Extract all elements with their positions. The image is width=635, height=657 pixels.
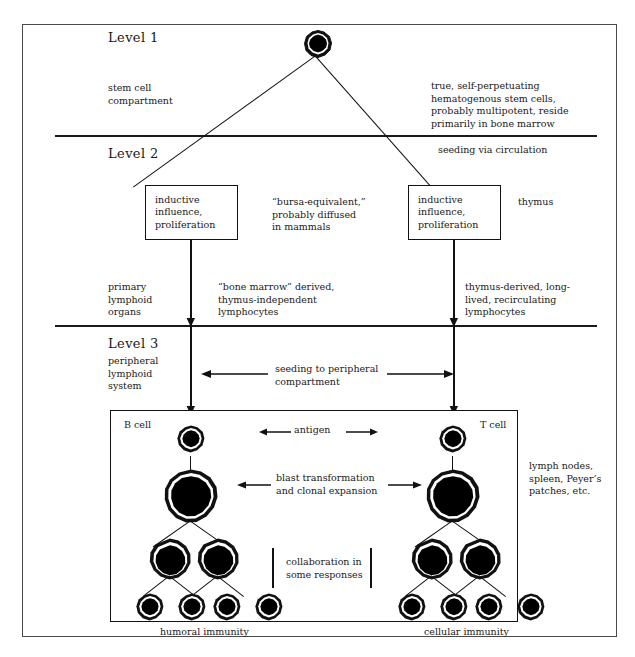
t-effector-blob-2 <box>439 592 469 622</box>
note-antigen: antigen <box>294 424 330 437</box>
t-cell-label: T cell <box>480 419 506 430</box>
note-seeding-to-peripheral: seeding to peripheral compartment <box>275 363 378 388</box>
note-bursa-equivalent: “bursa-equivalent,” probably diffused in… <box>272 196 366 234</box>
seeding-arrow-left <box>200 368 270 380</box>
b-clone-blob-2 <box>196 537 240 581</box>
t-effector-blob-1 <box>397 592 427 622</box>
left-box-down-line <box>190 240 192 325</box>
t-cell-resting-blob <box>438 424 468 454</box>
humoral-immunity-label: humoral immunity <box>160 626 249 637</box>
inductive-box-right: inductive influence, proliferation <box>408 185 501 240</box>
cellular-immunity-label: cellular immunity <box>424 626 509 637</box>
b-cell-blast-blob <box>163 468 219 524</box>
left-entry-line <box>190 325 192 413</box>
b-plasma-blob-1 <box>135 592 165 622</box>
blast-arrow-right <box>387 479 423 491</box>
b-cell-label: B cell <box>124 419 151 430</box>
inductive-box-right-text: inductive influence, proliferation <box>418 194 478 231</box>
b-clone-blob-1 <box>148 537 192 581</box>
collaboration-bracket-left <box>272 548 274 588</box>
inductive-box-left-text: inductive influence, proliferation <box>155 194 215 231</box>
note-lymphoid-tissues: lymph nodes, spleen, Peyer’s patches, et… <box>529 460 601 498</box>
seeding-arrow-right <box>385 368 455 380</box>
blast-arrow-left <box>236 479 272 491</box>
level-3-label: Level 3 <box>108 336 159 351</box>
level-2-label: Level 2 <box>108 146 159 161</box>
t-clone-blob-2 <box>458 537 502 581</box>
t-effector-blob-3 <box>474 592 504 622</box>
note-primary-lymphoid-organs: primary lymphoid organs <box>108 281 152 319</box>
note-stem-cell-description: true, self-perpetuating hematogenous ste… <box>431 80 569 130</box>
note-thymus: thymus <box>518 196 553 209</box>
b-plasma-blob-2 <box>177 592 207 622</box>
b-cell-resting-blob <box>176 424 206 454</box>
right-box-down-line <box>453 240 455 325</box>
collaboration-bracket-right <box>370 548 372 588</box>
figure-canvas: Level 1 stem cell compartment true, self… <box>0 0 635 657</box>
level-1-label: Level 1 <box>108 30 159 45</box>
right-entry-line <box>453 325 455 413</box>
antigen-arrow-right <box>345 426 379 438</box>
note-peripheral-lymphoid-system: peripheral lymphoid system <box>108 355 158 393</box>
stem-cell-blob <box>303 29 333 59</box>
note-bone-marrow-derived: “bone marrow” derived, thymus-independen… <box>218 281 334 319</box>
inductive-box-left: inductive influence, proliferation <box>145 185 238 240</box>
t-cell-blast-blob <box>425 468 481 524</box>
note-blast-transformation: blast transformation and clonal expansio… <box>276 472 377 497</box>
antigen-arrow-left <box>258 426 292 438</box>
b-plasma-blob-4 <box>254 592 284 622</box>
rule-level2-level3 <box>55 325 597 327</box>
t-clone-blob-1 <box>410 537 454 581</box>
note-thymus-derived: thymus-derived, long- lived, recirculati… <box>465 281 570 319</box>
note-collaboration: collaboration in some responses <box>286 556 363 581</box>
note-seeding-via-circulation: seeding via circulation <box>438 144 547 157</box>
t-effector-blob-4 <box>516 592 546 622</box>
rule-level1-level2 <box>55 135 597 137</box>
note-stem-cell-compartment: stem cell compartment <box>108 82 173 107</box>
b-plasma-blob-3 <box>212 592 242 622</box>
